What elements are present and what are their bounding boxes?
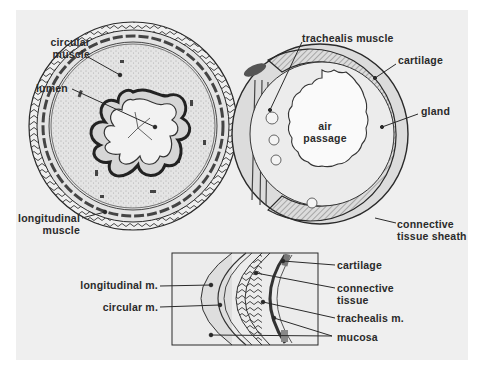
label-line: connective xyxy=(397,218,467,230)
label-trachealis-muscle: trachealis muscle xyxy=(302,32,394,44)
label-line: air xyxy=(300,120,350,132)
label-inset-trachealis-m: trachealis m. xyxy=(337,312,404,324)
label-line: tissue sheath xyxy=(397,230,467,242)
label-cartilage: cartilage xyxy=(398,54,443,66)
label-longitudinal-muscle: longitudinal muscle xyxy=(10,212,80,236)
label-inset-longitudinal-m: longitudinal m. xyxy=(60,279,158,291)
label-line: muscle xyxy=(40,48,90,60)
label-inset-cartilage: cartilage xyxy=(337,259,382,271)
label-gland: gland xyxy=(421,105,450,117)
label-inset-connective-tissue: connective tissue xyxy=(337,282,394,306)
inset-detail xyxy=(172,253,318,345)
label-inset-circular-m: circular m. xyxy=(60,301,158,313)
label-circular-muscle: circular muscle xyxy=(40,36,90,60)
label-lumen: lumen xyxy=(36,82,68,94)
label-line: longitudinal xyxy=(10,212,80,224)
label-line: circular xyxy=(40,36,90,48)
label-connective-tissue-sheath: connective tissue sheath xyxy=(397,218,467,242)
label-inset-mucosa: mucosa xyxy=(337,331,378,343)
label-line: tissue xyxy=(337,294,394,306)
label-air-passage: air passage xyxy=(300,120,350,144)
label-line: muscle xyxy=(10,224,80,236)
label-line: passage xyxy=(300,132,350,144)
label-line: connective xyxy=(337,282,394,294)
